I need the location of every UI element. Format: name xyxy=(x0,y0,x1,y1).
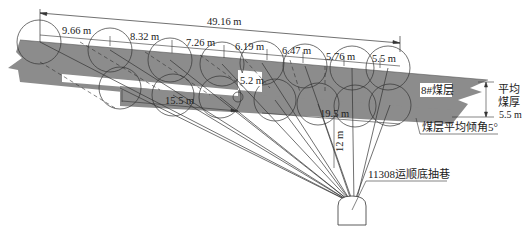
roadway-label: 11308运顺底抽巷 xyxy=(368,167,450,180)
spacing-label-7: 5.5 m xyxy=(372,53,396,64)
bottom-spacing-label-2: 19.5 m xyxy=(320,108,349,119)
roadway xyxy=(338,196,366,225)
spacing-label-1: 9.66 m xyxy=(62,25,91,36)
mid-spacing-label: 5.2 m xyxy=(240,75,264,86)
vertical-distance-label: 12 m xyxy=(334,131,345,152)
seam-label: 8#煤层 xyxy=(421,84,454,96)
thickness-value: 5.5 m xyxy=(499,109,522,120)
thickness-label-line1: 平均 xyxy=(498,83,520,95)
thickness-label-line2: 煤厚 xyxy=(498,96,520,108)
total-length-label: 49.16 m xyxy=(207,16,241,27)
spacing-label-6: 5.76 m xyxy=(326,51,355,62)
dip-angle-label: 煤层平均倾角5° xyxy=(422,121,498,133)
drilling-layout-diagram: 49.16 m 9.66 m 8.32 m 7.26 m 6.19 m 6.47… xyxy=(0,0,528,231)
spacing-label-2: 8.32 m xyxy=(130,31,159,42)
spacing-label-3: 7.26 m xyxy=(186,37,215,48)
